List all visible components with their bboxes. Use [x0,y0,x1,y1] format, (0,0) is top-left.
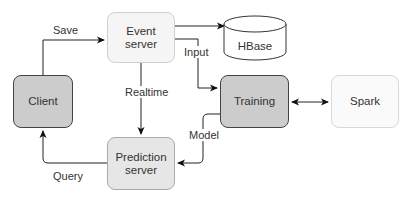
hbase-label: HBase [224,40,286,52]
node-spark: Spark [331,75,399,128]
spark-label: Spark [350,95,380,108]
training-label: Training [234,95,275,108]
event-server-label-2: server [125,38,157,51]
event-server-label-1: Event [126,25,155,38]
edge-label-save: Save [52,24,79,36]
edge-label-query: Query [52,170,84,182]
edge-label-model: Model [188,129,220,141]
edge-label-input: Input [183,46,209,58]
edge-query [43,131,107,163]
prediction-server-label-1: Prediction [115,151,166,164]
edge-label-realtime: Realtime [124,86,169,98]
prediction-server-label-2: server [125,164,157,177]
node-event-server: Event server [107,12,175,63]
node-client: Client [13,75,73,128]
hbase-cylinder-icon [224,16,286,60]
edge-save [43,40,104,75]
node-prediction-server: Prediction server [107,137,175,190]
client-label: Client [28,95,57,108]
node-training: Training [220,75,289,128]
